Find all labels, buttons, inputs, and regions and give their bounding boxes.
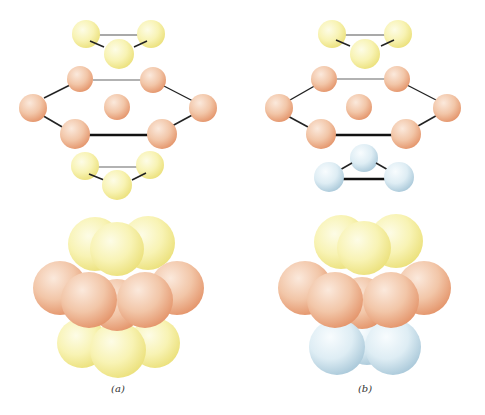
atom-sphere: [318, 20, 346, 48]
panel-b-middle-layer: [265, 66, 461, 149]
panel-b-top-layer: [318, 20, 412, 69]
atom-sphere: [433, 94, 461, 122]
atom-sphere: [384, 162, 414, 192]
atom-sphere: [140, 67, 166, 93]
atom-sphere: [384, 20, 412, 48]
panel-a-exploded-view: [19, 20, 217, 200]
panel-a-top-layer: [72, 20, 165, 69]
panel-b-exploded-view: [265, 20, 461, 192]
atom-sphere: [189, 94, 217, 122]
atom-sphere: [147, 119, 177, 149]
atom-sphere: [306, 119, 336, 149]
atom-sphere: [384, 66, 410, 92]
atom-sphere: [314, 162, 344, 192]
atom-sphere: [19, 94, 47, 122]
panel-b-packed-cluster: [278, 214, 451, 375]
panel-a-middle-layer: [19, 66, 217, 149]
panel-b-bottom-layer: [314, 144, 414, 192]
close-packing-figure: [0, 0, 485, 415]
atom-sphere: [104, 94, 130, 120]
panel-a-caption: (a): [98, 383, 138, 394]
atom-sphere: [346, 94, 372, 120]
atom-sphere: [104, 39, 134, 69]
atom-sphere: [265, 94, 293, 122]
atom-sphere: [350, 144, 378, 172]
panel-b-caption: (b): [345, 383, 385, 394]
panel-a-bottom-layer: [71, 151, 164, 200]
atom-sphere: [311, 66, 337, 92]
atom-sphere: [102, 170, 132, 200]
atom-sphere: [67, 66, 93, 92]
panel-a-packed-cluster: [33, 216, 204, 378]
atom-sphere: [350, 39, 380, 69]
atom-sphere: [136, 151, 164, 179]
atom-sphere: [60, 119, 90, 149]
atom-sphere: [391, 119, 421, 149]
